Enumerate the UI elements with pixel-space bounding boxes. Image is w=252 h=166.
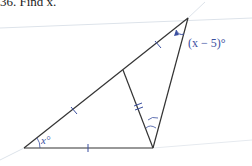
side-left	[24, 18, 188, 148]
triangle-diagram	[0, 0, 252, 166]
angle-arc-bottom-right	[146, 126, 156, 128]
guide-line	[0, 18, 252, 28]
angle-arc-bottom-right-2	[148, 117, 158, 120]
guide-line	[153, 140, 252, 148]
guide-line	[0, 148, 24, 160]
side-right	[153, 18, 188, 148]
angle-label-x-minus-5: (x − 5)°	[188, 36, 226, 51]
angle-arc-bottom-left	[37, 138, 40, 148]
guide-line	[188, 2, 205, 18]
angle-label-x: x°	[41, 134, 50, 146]
